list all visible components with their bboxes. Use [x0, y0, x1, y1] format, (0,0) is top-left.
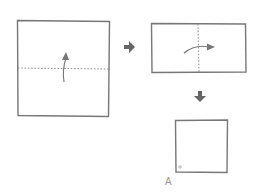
fold-right-arrow-curve: [184, 46, 209, 53]
arrow-down-icon: [194, 91, 206, 102]
origami-fold-diagram: A: [0, 0, 262, 192]
arrow-right-icon: [124, 41, 135, 53]
step-1-square: [18, 21, 110, 117]
fold-up-arrow-curve: [63, 58, 66, 82]
fold-up-arrowhead-icon: [62, 52, 69, 60]
diagram-canvas: [0, 0, 262, 192]
fold-right-arrowhead-icon: [207, 44, 215, 51]
step-2-rectangle: [152, 24, 247, 73]
result-label: A: [165, 176, 172, 187]
step-3-small-square: [176, 120, 228, 173]
vertical-fold-line: [198, 24, 199, 72]
corner-dot-marker: [179, 166, 181, 168]
